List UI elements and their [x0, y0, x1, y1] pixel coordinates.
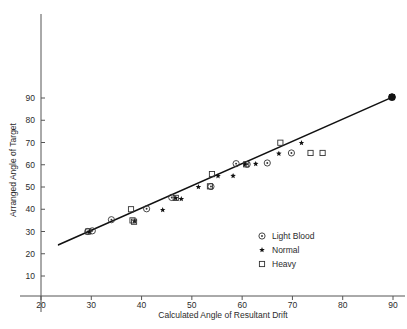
plot-canvas: 2030405060708090 102030405060708090 Ligh… [0, 0, 407, 329]
x-tick-label-70: 70 [288, 300, 298, 310]
point-1-10 [276, 151, 282, 156]
legend-label-1: Normal [272, 245, 300, 255]
legend-marker-1 [259, 247, 265, 252]
point-1-11 [299, 140, 305, 145]
point-2-1 [128, 207, 133, 212]
x-tick-label-90: 90 [388, 300, 398, 310]
x-axis-label: Calculated Angle of Resultant Drift [158, 310, 288, 320]
x-tick-label-40: 40 [137, 300, 147, 310]
x-tick-label-20: 20 [36, 300, 46, 310]
legend-label-0: Light Blood [272, 231, 315, 241]
x-tick-labels: 2030405060708090 [36, 300, 398, 310]
point-1-4 [179, 196, 185, 201]
point-1-5 [196, 184, 202, 189]
legend-label-2: Heavy [272, 259, 297, 269]
point-0-5-center [210, 186, 212, 188]
point-0-9-center [290, 152, 292, 154]
y-tick-label-80: 80 [26, 115, 36, 125]
point-0-3-center [146, 208, 148, 210]
y-tick-label-30: 30 [26, 227, 36, 237]
trendline [59, 97, 393, 245]
point-0-8-center [266, 162, 268, 164]
legend: Light BloodNormalHeavy [259, 231, 315, 269]
overlapping-marker-cluster [389, 94, 396, 101]
point-2-9 [308, 150, 313, 155]
y-tick-label-90: 90 [26, 93, 36, 103]
x-tick-label-60: 60 [237, 300, 247, 310]
y-tick-label-10: 10 [26, 271, 36, 281]
y-tick-labels: 102030405060708090 [26, 93, 36, 281]
x-tick-label-50: 50 [187, 300, 197, 310]
axes [20, 14, 405, 296]
point-0-4-center [171, 197, 173, 199]
legend-marker-0-center [261, 235, 263, 237]
point-2-8 [278, 140, 283, 145]
y-tick-label-60: 60 [26, 160, 36, 170]
y-tick-label-70: 70 [26, 138, 36, 148]
y-tick-label-20: 20 [26, 249, 36, 259]
legend-marker-2 [259, 261, 264, 266]
scatter-plot-figure: 2030405060708090 102030405060708090 Ligh… [0, 0, 407, 329]
tick-marks [41, 98, 393, 312]
regression-line [59, 97, 393, 245]
y-tick-label-40: 40 [26, 204, 36, 214]
point-0-2-center [110, 219, 112, 221]
point-1-9 [253, 161, 259, 166]
point-0-6-center [235, 163, 237, 165]
point-2-10 [320, 150, 325, 155]
point-1-2 [160, 207, 166, 212]
y-tick-label-50: 50 [26, 182, 36, 192]
x-tick-label-30: 30 [87, 300, 97, 310]
y-axis-label: Arranged Angle of Target [8, 122, 18, 217]
point-1-7 [230, 173, 236, 178]
x-tick-label-80: 80 [338, 300, 348, 310]
point-0-1-center [91, 230, 93, 232]
